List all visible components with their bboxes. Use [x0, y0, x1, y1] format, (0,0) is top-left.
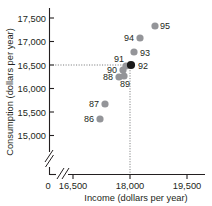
data-label-89: 89	[120, 79, 130, 89]
data-point-95	[151, 22, 158, 29]
y-tick-label-17500: 17,500	[18, 14, 46, 24]
y-tick-label-16000: 16,000	[18, 84, 46, 94]
y-tick-label-16500: 16,500	[18, 61, 46, 71]
y-axis-break-mark-2	[46, 155, 54, 167]
data-label-86: 86	[84, 114, 94, 124]
data-label-94: 94	[124, 33, 134, 43]
x-tick-label-18000: 18,000	[116, 181, 144, 191]
x-tick-label-19500: 19,500	[173, 181, 201, 191]
y-tick-label-15500: 15,500	[18, 108, 46, 118]
x-tick-label-16500: 16,500	[59, 181, 87, 191]
x-tick-label-0: 0	[45, 181, 50, 191]
y-tick-label-17000: 17,000	[18, 37, 46, 47]
y-axis-title: Consumption (dollars per year)	[5, 28, 15, 156]
data-point-87	[101, 100, 108, 107]
data-point-94	[136, 34, 143, 41]
data-label-95: 95	[160, 21, 170, 31]
data-label-93: 93	[140, 48, 150, 58]
data-point-86	[96, 115, 103, 122]
chart-canvas: 17,500 17,000 16,500 16,000 15,500 15,00…	[0, 0, 212, 206]
data-label-91: 91	[114, 54, 124, 64]
scatter-chart: 17,500 17,000 16,500 16,000 15,500 15,00…	[0, 0, 212, 206]
data-point-93	[130, 48, 137, 55]
x-axis-title: Income (dollars per year)	[84, 193, 187, 203]
data-label-87: 87	[89, 99, 99, 109]
data-label-90: 90	[107, 65, 117, 75]
data-label-92: 92	[138, 61, 148, 71]
y-tick-label-15000: 15,000	[18, 131, 46, 141]
data-point-92	[127, 61, 135, 69]
